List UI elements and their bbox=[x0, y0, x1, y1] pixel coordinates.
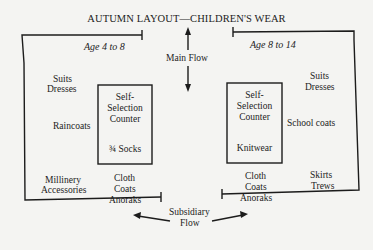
left-dresses: Dresses bbox=[47, 84, 77, 95]
right-cloth: Cloth bbox=[245, 171, 266, 182]
main-flow-label: Main Flow bbox=[166, 53, 208, 64]
right-counter-line1: Self- bbox=[227, 90, 282, 101]
left-raincoats: Raincoats bbox=[53, 121, 90, 132]
left-counter-line1: Self- bbox=[98, 92, 152, 103]
arrow-down-icon bbox=[185, 84, 191, 92]
left-age-label: Age 4 to 8 bbox=[84, 42, 125, 53]
right-trews: Trews bbox=[311, 181, 334, 192]
arrow-left-icon bbox=[133, 212, 141, 219]
right-counter-line2: Selection bbox=[227, 101, 282, 112]
left-counter-product: ¾ Socks bbox=[98, 144, 152, 155]
arrow-up-icon bbox=[185, 27, 191, 35]
subsidiary-flow-line1: Subsidiary bbox=[169, 207, 210, 218]
left-cloth: Cloth bbox=[114, 173, 135, 184]
left-counter-line2: Selection bbox=[98, 103, 152, 114]
right-suits: Suits bbox=[310, 71, 329, 82]
right-school-coats: School coats bbox=[287, 118, 335, 129]
subsidiary-flow-line2: Flow bbox=[180, 218, 200, 229]
left-coats: Coats bbox=[114, 184, 136, 195]
right-counter-line3: Counter bbox=[227, 112, 282, 123]
right-skirts: Skirts bbox=[310, 170, 332, 181]
left-suits: Suits bbox=[53, 74, 72, 85]
left-counter-line3: Counter bbox=[98, 114, 152, 125]
right-counter-product: Knitwear bbox=[227, 143, 282, 154]
right-coats: Coats bbox=[245, 182, 267, 193]
right-dresses: Dresses bbox=[305, 82, 335, 93]
right-anoraks: Anoraks bbox=[240, 193, 272, 204]
left-millinery: Millinery bbox=[45, 175, 81, 186]
left-accessories: Accessories bbox=[41, 185, 86, 196]
arrow-right-icon bbox=[240, 211, 248, 218]
right-age-label: Age 8 to 14 bbox=[250, 40, 296, 51]
left-anoraks: Anoraks bbox=[109, 195, 141, 206]
